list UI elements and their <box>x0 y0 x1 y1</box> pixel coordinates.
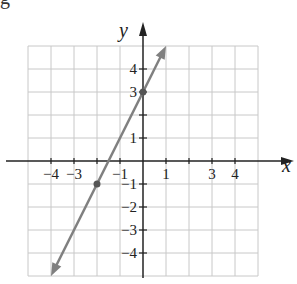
y-tick-label: 1 <box>130 130 138 146</box>
line-arrow-bottom-icon <box>51 262 61 276</box>
x-axis-label: x <box>281 154 291 176</box>
y-tick-label: −1 <box>121 176 137 192</box>
y-tick-label: −2 <box>121 199 137 215</box>
line-arrow-top-icon <box>156 46 166 60</box>
x-tick-label: 1 <box>162 166 170 182</box>
y-axis-label: y <box>117 19 128 42</box>
y-tick-label: −4 <box>121 245 137 261</box>
y-tick-label: 4 <box>130 61 138 77</box>
plotted-point <box>94 181 101 188</box>
x-tick-label: 3 <box>208 166 216 182</box>
x-tick-label: −4 <box>43 166 59 182</box>
y-axis-arrow-icon <box>139 22 147 36</box>
y-tick-label: 3 <box>130 84 138 100</box>
x-tick-label: −3 <box>66 166 82 182</box>
coordinate-plane: −4−3−1134431−1−2−3−4 x y <box>0 0 297 284</box>
axes <box>6 22 294 278</box>
plotted-point <box>140 89 147 96</box>
x-tick-label: 4 <box>231 166 239 182</box>
y-tick-label: −3 <box>121 222 137 238</box>
